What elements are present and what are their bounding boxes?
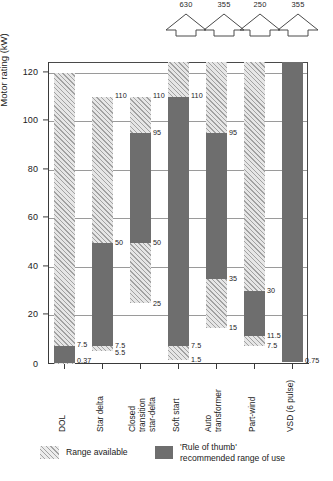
bar-recommended-range (130, 133, 151, 242)
legend-swatch-range-available (40, 446, 59, 459)
value-label: 15 (229, 324, 237, 332)
x-category-label-star-delta: Star delta (96, 396, 105, 432)
bar-recommended-range (54, 346, 75, 363)
bar-range-available (54, 73, 75, 365)
value-label: 7.5 (267, 342, 277, 350)
value-label: 50 (115, 239, 123, 247)
y-axis-title: Motor rating (kW) (0, 0, 9, 150)
value-label: 30 (267, 287, 275, 295)
bar-group-closed-transition-star-delta[interactable]: 110 95 50 25 (130, 62, 162, 364)
legend-label-recommended: 'Rule of thumb' recommended range of use (180, 442, 330, 464)
bar-recommended-range (92, 243, 113, 346)
bar-recommended-range (206, 133, 227, 279)
bar-group-dol[interactable]: 7.5 0.37 (54, 62, 84, 364)
overflow-callout-layer: 630 355 250 355 (0, 0, 333, 62)
y-tick-label: 80 (8, 164, 38, 174)
x-category-label-auto-transformer-line2: transformer (214, 389, 223, 432)
legend-label-recommended-line1: 'Rule of thumb' (180, 442, 330, 453)
bar-group-part-wind[interactable]: 30 11.5 7.5 (244, 62, 276, 364)
x-tick-mark (216, 364, 217, 369)
bar-recommended-range (282, 62, 303, 362)
x-tick-mark (140, 364, 141, 369)
legend-swatch-recommended (155, 446, 173, 459)
y-tick-label: 120 (8, 67, 38, 77)
x-category-label-soft-start: Soft start (172, 398, 181, 432)
x-category-label-vsd: VSD (6 pulse) (286, 380, 295, 432)
motor-rating-chart: 630 355 250 355 (0, 0, 333, 481)
value-label: 50 (153, 239, 161, 247)
value-label: 25 (153, 300, 161, 308)
chart-legend: Range available 'Rule of thumb' recommen… (40, 443, 320, 475)
bar-recommended-range (244, 291, 265, 336)
y-tick-label: 40 (8, 261, 38, 271)
bar-group-star-delta[interactable]: 110 50 7.5 5.5 (92, 62, 124, 364)
bar-group-auto-transformer[interactable]: 95 35 15 (206, 62, 238, 364)
x-tick-mark (178, 364, 179, 369)
value-label: 35 (229, 275, 237, 283)
legend-label-recommended-line2: recommended range of use (180, 453, 330, 464)
y-tick-label: 60 (8, 212, 38, 222)
overflow-callout-vsd: 355 (272, 0, 324, 38)
x-category-label-ct-line3: star-delta (148, 397, 157, 432)
value-label: 7.5 (77, 341, 87, 349)
x-tick-mark (64, 364, 65, 369)
x-tick-mark (102, 364, 103, 369)
value-label: 11.5 (267, 332, 281, 340)
overflow-callout-value: 355 (272, 0, 324, 9)
bars-layer: 7.5 0.37 110 50 7.5 5.5 110 95 50 25 110… (48, 62, 308, 364)
value-label: 95 (229, 129, 237, 137)
value-label: 1.5 (191, 356, 201, 364)
value-label: 110 (191, 92, 203, 100)
value-label: 110 (153, 92, 165, 100)
x-category-label-closed-transition-star-delta: Closed (128, 406, 137, 432)
value-label: 110 (115, 92, 127, 100)
x-category-label-line1: Closed (127, 406, 137, 432)
up-arrow-icon (272, 10, 324, 38)
bar-recommended-range (168, 97, 189, 346)
x-category-label-part-wind: Part-wind (248, 397, 257, 432)
x-tick-mark (292, 364, 293, 369)
value-label: 95 (153, 129, 161, 137)
value-label: 7.5 (191, 342, 201, 350)
legend-label-range-available: Range available (66, 447, 128, 457)
x-category-label-auto-transformer-line1: Auto (204, 415, 213, 432)
x-tick-mark (254, 364, 255, 369)
x-category-label-ct-line2: transition (138, 398, 147, 432)
y-tick-label: 0 (8, 359, 38, 369)
bar-group-soft-start[interactable]: 110 7.5 1.5 (168, 62, 200, 364)
y-tick-label: 100 (8, 115, 38, 125)
y-tick-label: 20 (8, 309, 38, 319)
value-label: 5.5 (115, 349, 125, 357)
bar-group-vsd-6-pulse[interactable]: 0.75 (282, 62, 314, 364)
x-axis-labels: DOL Star delta Closed transition star-de… (0, 370, 333, 440)
x-category-label-dol: DOL (58, 415, 67, 432)
